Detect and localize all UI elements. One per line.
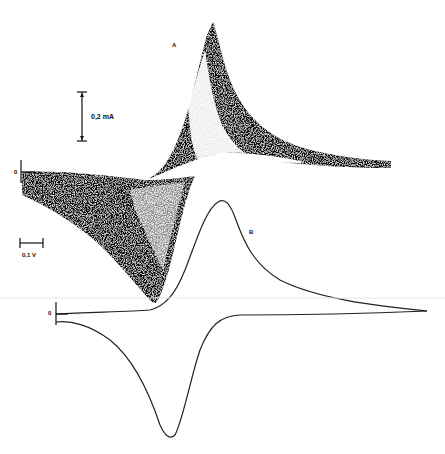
- panel-b-cathodic-sweep: [56, 311, 427, 437]
- panel-b-label: B: [249, 229, 253, 235]
- panel-a-zero-label: 0: [14, 169, 17, 175]
- current-scale-label: 0,2 mA: [91, 113, 114, 120]
- panel-a-anodic-envelope: [150, 22, 391, 178]
- panel-b-zero-label: 0: [48, 310, 51, 316]
- panel-a-plot: [21, 22, 391, 303]
- potential-scale-label: 0,1 V: [22, 252, 36, 258]
- cyclic-voltammogram-figure: A B 0,2 mA 0,1 V 0 0: [0, 0, 445, 454]
- panel-a-label: A: [172, 42, 176, 48]
- current-scale-bar: [77, 92, 87, 141]
- potential-scale-bar: [20, 238, 43, 248]
